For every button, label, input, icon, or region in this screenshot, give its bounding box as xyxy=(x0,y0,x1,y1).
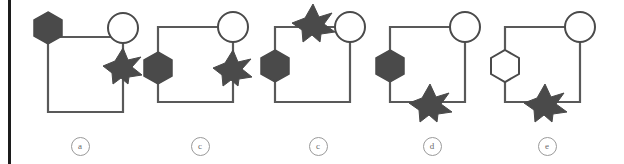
diagram-panel-b: c xyxy=(140,0,260,164)
star-node[interactable] xyxy=(292,4,335,42)
hexagon-node[interactable] xyxy=(144,52,172,84)
caption-letter: c xyxy=(309,137,328,156)
hexagon-node[interactable] xyxy=(491,50,519,82)
circle-node[interactable] xyxy=(335,12,365,42)
caption-letter: a xyxy=(71,137,90,156)
panel-caption-a: a xyxy=(20,137,140,156)
circle-node[interactable] xyxy=(218,12,248,42)
diagram-panel-e: e xyxy=(487,0,607,164)
circle-node[interactable] xyxy=(108,13,138,43)
graph-svg-e xyxy=(487,0,617,145)
circle-node[interactable] xyxy=(450,12,480,42)
caption-letter: e xyxy=(538,137,557,156)
star-node[interactable] xyxy=(213,50,252,86)
caption-letter: d xyxy=(423,137,442,156)
diagram-panel-a: a xyxy=(20,0,140,164)
panel-caption-e: e xyxy=(487,137,607,156)
hexagon-node[interactable] xyxy=(376,50,404,82)
panel-caption-d: d xyxy=(372,137,492,156)
hexagon-node[interactable] xyxy=(261,50,289,82)
page-border-left xyxy=(8,0,11,164)
star-node[interactable] xyxy=(103,48,142,84)
panel-caption-c: c xyxy=(258,137,378,156)
graph-svg-b xyxy=(140,0,270,140)
caption-letter: c xyxy=(191,137,210,156)
graph-svg-a xyxy=(20,0,140,140)
hexagon-node[interactable] xyxy=(34,12,62,44)
figure-root: a c c d xyxy=(0,0,624,164)
diagram-panel-d: d xyxy=(372,0,492,164)
graph-svg-d xyxy=(372,0,502,145)
graph-svg-c xyxy=(258,0,388,140)
panel-caption-b: c xyxy=(140,137,260,156)
circle-node[interactable] xyxy=(565,12,595,42)
diagram-panel-c: c xyxy=(258,0,378,164)
